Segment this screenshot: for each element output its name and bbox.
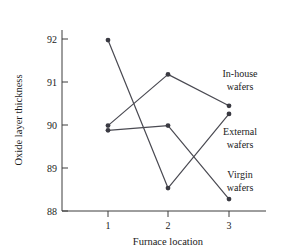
series-point-external-2 — [166, 123, 171, 128]
series-point-in-house-1 — [106, 123, 111, 128]
x-tick-label-2: 2 — [166, 220, 171, 231]
chart-container: 92 91 90 89 88 1 2 3 Furnace location Ox… — [0, 0, 305, 252]
series-point-virgin-3 — [227, 112, 232, 117]
series-point-in-house-2 — [166, 72, 171, 77]
series-point-external-1 — [106, 128, 111, 133]
series-point-virgin-2 — [166, 186, 171, 191]
series-line-virgin — [108, 40, 229, 188]
annotation-in-house-line1: In-house — [223, 68, 259, 79]
y-tick-label-91: 91 — [47, 77, 57, 88]
y-tick-label-89: 89 — [47, 163, 57, 174]
x-tick-label-1: 1 — [106, 220, 111, 231]
y-tick-label-88: 88 — [47, 206, 57, 217]
y-axis-title: Oxide layer thickness — [13, 75, 24, 166]
series-point-in-house-3 — [227, 103, 232, 108]
line-chart: 92 91 90 89 88 1 2 3 Furnace location Ox… — [0, 0, 305, 252]
x-axis-title: Furnace location — [133, 236, 204, 247]
annotation-virgin-line2: wafers — [227, 182, 254, 193]
series-point-virgin-1 — [106, 38, 111, 43]
y-tick-label-90: 90 — [47, 120, 57, 131]
annotation-in-house-line2: wafers — [227, 81, 254, 92]
annotation-virgin-line1: Virgin — [227, 169, 252, 180]
x-tick-label-3: 3 — [227, 220, 232, 231]
annotation-external-line1: External — [223, 126, 257, 137]
series-point-external-3 — [227, 197, 232, 202]
y-tick-label-92: 92 — [47, 34, 57, 45]
annotation-external-line2: wafers — [227, 139, 254, 150]
series-line-in-house — [108, 74, 229, 125]
